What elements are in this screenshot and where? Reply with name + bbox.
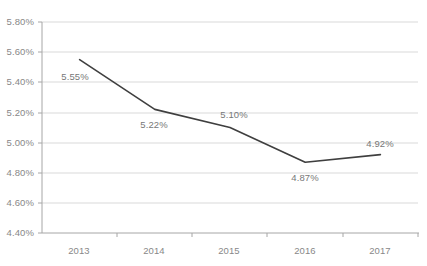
- y-tick-label: 4.40%: [0, 228, 34, 238]
- data-label-2013: 5.55%: [53, 72, 97, 82]
- data-label-2017: 4.92%: [358, 139, 402, 149]
- line-chart: 5.80% 5.60% 5.40% 5.20% 5.00% 4.80% 4.60…: [0, 0, 427, 266]
- data-label-2014: 5.22%: [132, 120, 176, 130]
- chart-canvas: [0, 0, 427, 266]
- data-label-2015: 5.10%: [212, 110, 256, 120]
- y-tick-label: 5.00%: [0, 138, 34, 148]
- x-tick-label-2017: 2017: [360, 246, 400, 256]
- y-tick-label: 4.60%: [0, 198, 34, 208]
- y-tick-label: 5.40%: [0, 77, 34, 87]
- y-axis-ticks: [38, 22, 42, 233]
- x-tick-label-2016: 2016: [285, 246, 325, 256]
- data-label-2016: 4.87%: [283, 173, 327, 183]
- x-axis-ticks: [117, 233, 418, 237]
- y-tick-label: 5.60%: [0, 47, 34, 57]
- y-tick-label: 5.20%: [0, 108, 34, 118]
- y-tick-label: 5.80%: [0, 17, 34, 27]
- x-tick-label-2013: 2013: [59, 246, 99, 256]
- y-tick-label: 4.80%: [0, 168, 34, 178]
- x-tick-label-2015: 2015: [209, 246, 249, 256]
- x-tick-label-2014: 2014: [134, 246, 174, 256]
